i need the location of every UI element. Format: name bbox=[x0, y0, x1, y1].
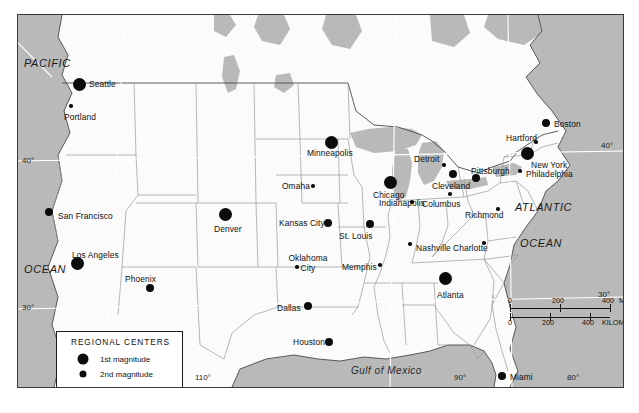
city-dot-detroit[interactable] bbox=[442, 163, 446, 167]
legend-row-2nd[interactable]: 2nd magnitude bbox=[57, 367, 184, 381]
scale-label-km-200: 200 bbox=[542, 318, 554, 327]
city-label-miami: Miami bbox=[510, 373, 533, 382]
legend-dot-2nd-magnitude bbox=[80, 371, 87, 378]
city-label-richmond: Richmond bbox=[465, 211, 504, 220]
city-label-oklahoma-city: Oklahoma City bbox=[285, 254, 331, 273]
scale-tick-miles-400 bbox=[610, 304, 611, 312]
city-label-dallas: Dallas bbox=[277, 304, 301, 313]
city-dot-atlanta[interactable] bbox=[439, 272, 452, 285]
city-dot-cleveland[interactable] bbox=[449, 170, 457, 178]
scale-line-kilometers bbox=[510, 317, 610, 318]
city-label-portland: Portland bbox=[64, 113, 96, 122]
city-dot-dallas[interactable] bbox=[304, 302, 312, 310]
map-frame: PACIFIC OCEAN ATLANTIC OCEAN Gulf of Mex… bbox=[17, 14, 624, 388]
graticule-label-lon-80: 80° bbox=[567, 373, 579, 382]
city-dot-seattle[interactable] bbox=[73, 78, 86, 91]
city-label-boston: Boston bbox=[554, 120, 581, 129]
legend-dot-1st-magnitude bbox=[78, 354, 89, 365]
city-dot-nashville[interactable] bbox=[408, 242, 412, 246]
legend[interactable]: REGIONAL CENTERS 1st magnitude 2nd magni… bbox=[56, 331, 183, 388]
city-label-denver: Denver bbox=[214, 225, 242, 234]
city-label-indianapolis: Indianapolis bbox=[379, 199, 425, 208]
scale-tick-miles-0 bbox=[510, 304, 511, 312]
atlantic-ocean-label: ATLANTIC bbox=[515, 201, 572, 213]
city-dot-kansas-city[interactable] bbox=[324, 219, 332, 227]
legend-row-1st[interactable]: 1st magnitude bbox=[57, 352, 184, 366]
legend-label-1st-magnitude: 1st magnitude bbox=[100, 355, 150, 364]
city-label-detroit: Detroit bbox=[414, 155, 439, 164]
city-dot-st-louis[interactable] bbox=[366, 220, 374, 228]
city-label-omaha: Omaha bbox=[282, 182, 310, 191]
atlantic-ocean-label-2: OCEAN bbox=[520, 237, 562, 249]
scale-label-miles-200: 200 bbox=[552, 296, 564, 305]
graticule-label-lat-40-left: 40° bbox=[22, 156, 34, 165]
city-dot-minneapolis[interactable] bbox=[325, 136, 338, 149]
city-dot-chicago[interactable] bbox=[384, 176, 397, 189]
scale-bar: 0 200 400 MILES 0 200 400 KILOMETERS bbox=[507, 296, 622, 324]
city-label-memphis: Memphis bbox=[342, 263, 377, 272]
city-label-cleveland: Cleveland bbox=[432, 182, 470, 191]
city-label-columbus: Columbus bbox=[422, 200, 461, 209]
graticule-label-lon-110: 110° bbox=[195, 373, 211, 382]
graticule-label-lat-30-left: 30° bbox=[22, 303, 34, 312]
scale-tick-miles-200 bbox=[560, 304, 561, 312]
city-label-charlotte: Charlotte bbox=[453, 244, 488, 253]
city-dot-boston[interactable] bbox=[542, 119, 550, 127]
city-label-pittsburgh: Pittsburgh bbox=[471, 167, 510, 176]
city-label-phoenix: Phoenix bbox=[125, 275, 156, 284]
city-label-seattle: Seattle bbox=[89, 80, 116, 89]
city-dot-san-francisco[interactable] bbox=[45, 208, 53, 216]
legend-title: REGIONAL CENTERS bbox=[57, 337, 184, 347]
graticule-label-lat-40-right: 40° bbox=[601, 141, 613, 150]
pacific-ocean-label-2: OCEAN bbox=[24, 263, 66, 275]
city-label-kansas-city: Kansas City bbox=[279, 219, 325, 228]
legend-row-3rd[interactable]: 3rd magnitude bbox=[57, 382, 184, 388]
graticule-label-lon-90: 90° bbox=[454, 373, 466, 382]
scale-unit-kilometers: KILOMETERS bbox=[602, 318, 624, 327]
scale-label-km-400: 400 bbox=[582, 318, 594, 327]
city-dot-miami[interactable] bbox=[498, 372, 506, 380]
city-label-houston: Houston bbox=[293, 338, 325, 347]
city-label-st-louis: St. Louis bbox=[339, 232, 373, 241]
city-label-atlanta: Atlanta bbox=[437, 291, 464, 300]
city-dot-portland[interactable] bbox=[69, 104, 73, 108]
scale-label-miles-0: 0 bbox=[508, 296, 512, 305]
map-screenshot: PACIFIC OCEAN ATLANTIC OCEAN Gulf of Mex… bbox=[0, 0, 639, 413]
city-label-san-francisco: San Francisco bbox=[58, 212, 113, 221]
city-dot-phoenix[interactable] bbox=[146, 284, 154, 292]
city-label-philadelphia: Philadelphia bbox=[526, 170, 573, 179]
scale-label-km-0: 0 bbox=[508, 318, 512, 327]
legend-dot-3rd-magnitude bbox=[81, 387, 84, 388]
legend-label-2nd-magnitude: 2nd magnitude bbox=[100, 370, 153, 379]
pacific-ocean-label: PACIFIC bbox=[24, 57, 71, 69]
city-dot-omaha[interactable] bbox=[311, 184, 315, 188]
city-dot-houston[interactable] bbox=[325, 338, 333, 346]
gulf-of-mexico-label: Gulf of Mexico bbox=[351, 365, 422, 376]
city-label-los-angeles: Los Angeles bbox=[72, 251, 119, 260]
city-label-minneapolis: Minneapolis bbox=[307, 149, 353, 158]
city-label-nashville: Nashville bbox=[416, 244, 451, 253]
city-dot-columbus[interactable] bbox=[448, 192, 452, 196]
city-dot-memphis[interactable] bbox=[378, 263, 382, 267]
legend-label-3rd-magnitude: 3rd magnitude bbox=[100, 385, 151, 389]
scale-unit-miles: MILES bbox=[619, 296, 624, 305]
city-label-hartford: Hartford bbox=[506, 134, 537, 143]
scale-label-miles-400: 400 bbox=[602, 296, 614, 305]
city-dot-new-york[interactable] bbox=[521, 147, 534, 160]
city-dot-philadelphia[interactable] bbox=[518, 169, 522, 173]
city-dot-denver[interactable] bbox=[219, 208, 232, 221]
